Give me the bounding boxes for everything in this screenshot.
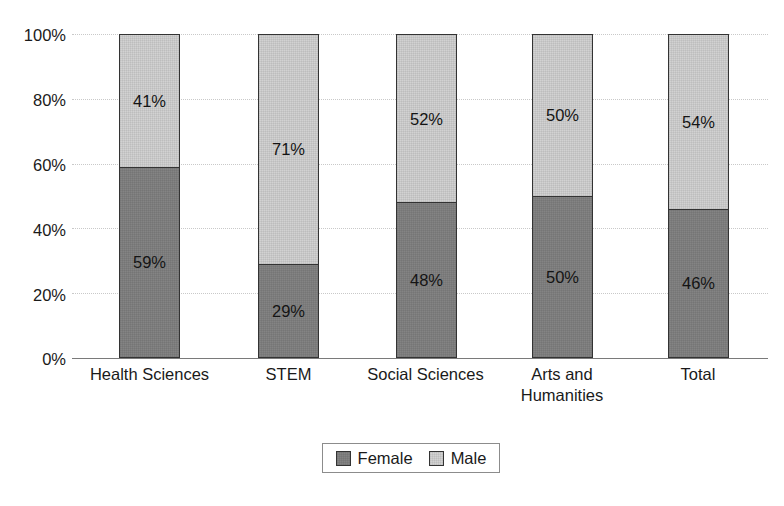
bar-value-label: 50%: [546, 269, 579, 286]
y-axis-tick-label: 0%: [42, 350, 66, 368]
bar-segment-female[interactable]: 46%: [668, 209, 729, 358]
bar-group-health-sciences[interactable]: 41% 59%: [119, 34, 180, 358]
bar-segment-female[interactable]: 29%: [258, 264, 319, 358]
legend-swatch-male-icon: [429, 451, 444, 466]
bar-value-label: 29%: [272, 303, 305, 320]
stacked-bar-chart: 100% 80% 60% 40% 20% 0% 41% 59%: [0, 0, 784, 506]
y-axis-tick-label: 60%: [33, 156, 66, 174]
y-axis-tick-0: 0%: [6, 351, 66, 368]
y-axis-tick-label: 100%: [24, 26, 66, 44]
bar-value-label: 59%: [133, 254, 166, 271]
legend-label: Male: [451, 450, 487, 467]
bar-segment-male[interactable]: 50%: [532, 34, 593, 196]
x-axis-label-line: Health Sciences: [90, 365, 209, 383]
y-axis-tick-label: 40%: [33, 221, 66, 239]
bar-group-total[interactable]: 54% 46%: [668, 34, 729, 358]
bar-value-label: 52%: [410, 111, 443, 128]
bar-segment-female[interactable]: 59%: [119, 167, 180, 358]
bar-value-label: 41%: [133, 93, 166, 110]
bar-value-label: 54%: [682, 114, 715, 131]
bar-value-label: 48%: [410, 272, 443, 289]
y-axis-tick-100: 100%: [6, 27, 66, 44]
bar-segment-male[interactable]: 52%: [396, 34, 457, 202]
y-axis-tick-20: 20%: [6, 287, 66, 304]
x-axis-label-total: Total: [613, 364, 783, 385]
legend-item-male[interactable]: Male: [429, 450, 487, 467]
legend-swatch-female-icon: [336, 451, 351, 466]
y-axis-tick-40: 40%: [6, 222, 66, 239]
y-axis-tick-80: 80%: [6, 92, 66, 109]
x-axis-label-line: Arts and: [531, 365, 592, 383]
y-axis-tick-60: 60%: [6, 157, 66, 174]
x-axis-label-line: STEM: [266, 365, 312, 383]
bar-value-label: 71%: [272, 141, 305, 158]
legend-item-female[interactable]: Female: [336, 450, 413, 467]
bar-group-social-sciences[interactable]: 52% 48%: [396, 34, 457, 358]
bar-segment-male[interactable]: 54%: [668, 34, 729, 209]
bar-segment-female[interactable]: 50%: [532, 196, 593, 358]
plot-area: 41% 59% 71% 29% 52% 48%: [72, 34, 768, 358]
x-axis-label-line: Total: [681, 365, 716, 383]
y-axis-tick-label: 80%: [33, 91, 66, 109]
bar-segment-female[interactable]: 48%: [396, 202, 457, 358]
legend-label: Female: [358, 450, 413, 467]
y-axis-tick-label: 20%: [33, 286, 66, 304]
bar-value-label: 46%: [682, 275, 715, 292]
x-axis-line: [72, 358, 768, 359]
x-axis-label-line: Social Sciences: [367, 365, 483, 383]
bar-segment-male[interactable]: 41%: [119, 34, 180, 167]
legend: Female Male: [322, 443, 500, 473]
bar-value-label: 50%: [546, 107, 579, 124]
bar-group-arts-and-humanities[interactable]: 50% 50%: [532, 34, 593, 358]
bar-segment-male[interactable]: 71%: [258, 34, 319, 264]
x-axis-label-line: Humanities: [521, 386, 604, 404]
bar-group-stem[interactable]: 71% 29%: [258, 34, 319, 358]
